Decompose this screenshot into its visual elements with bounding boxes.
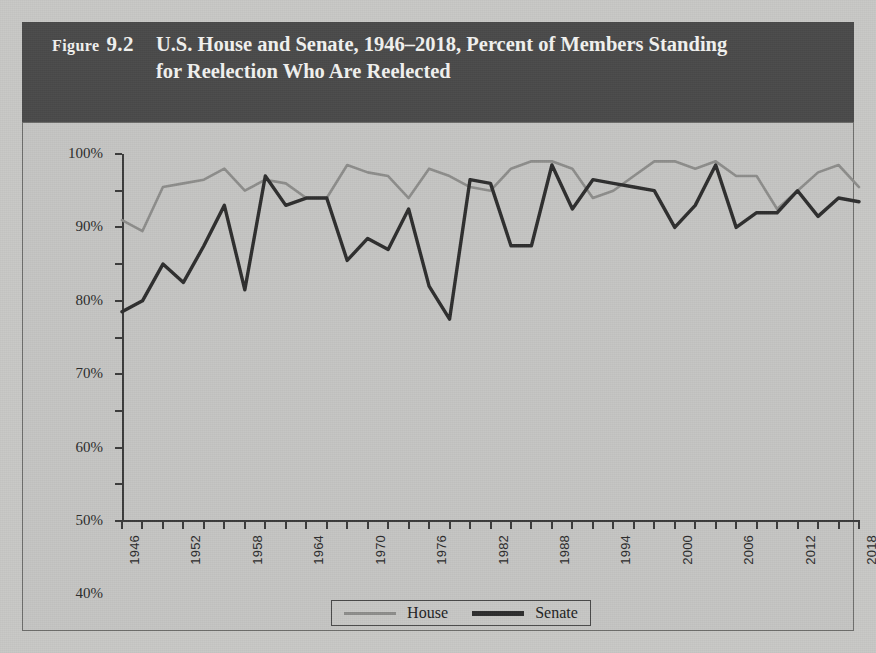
y-axis-tick: 20% bbox=[115, 447, 122, 449]
x-axis-tick bbox=[367, 521, 369, 529]
y-axis-tick-label: 40% bbox=[76, 585, 104, 602]
x-axis-tick-label: 1964 bbox=[311, 535, 326, 565]
x-axis-tick bbox=[490, 521, 492, 529]
x-axis-tick-label: 1988 bbox=[557, 535, 572, 565]
x-axis-tick bbox=[469, 521, 471, 529]
legend-label-senate: Senate bbox=[535, 604, 578, 622]
x-axis-tick-label: 1976 bbox=[434, 535, 449, 565]
x-axis-tick bbox=[182, 521, 184, 529]
figure-title-text: U.S. House and Senate, 1946–2018, Percen… bbox=[156, 31, 756, 85]
chart-legend: House Senate bbox=[331, 600, 591, 626]
x-axis-tick-label: 1952 bbox=[188, 535, 203, 565]
x-axis-tick bbox=[530, 521, 532, 529]
y-axis-tick: 70% bbox=[115, 263, 122, 265]
x-axis-tick bbox=[735, 521, 737, 529]
legend-swatch-house-icon bbox=[344, 612, 396, 615]
x-axis-tick-label: 1946 bbox=[127, 535, 142, 565]
x-axis-tick-label: 2018 bbox=[864, 535, 876, 565]
figure-title-band: Figure9.2 U.S. House and Senate, 1946–20… bbox=[22, 22, 854, 122]
figure-page: Figure9.2 U.S. House and Senate, 1946–20… bbox=[0, 0, 876, 653]
x-axis-tick bbox=[203, 521, 205, 529]
x-axis-tick-label: 2006 bbox=[741, 535, 756, 565]
y-axis-tick: 30% bbox=[115, 410, 122, 412]
x-axis-tick bbox=[428, 521, 430, 529]
x-axis-tick bbox=[408, 521, 410, 529]
x-axis-tick-label: 1982 bbox=[496, 535, 511, 565]
x-axis-tick-label: 2012 bbox=[803, 535, 818, 565]
x-axis-tick bbox=[387, 521, 389, 529]
series-line-senate bbox=[122, 165, 859, 319]
chart-frame: 100%90%80%70%60%50%40%30%20%10%0% 194619… bbox=[22, 122, 854, 631]
x-axis-tick bbox=[592, 521, 594, 529]
y-axis-tick: 50% bbox=[115, 337, 122, 339]
x-axis-tick bbox=[838, 521, 840, 529]
x-axis-tick-label: 2000 bbox=[680, 535, 695, 565]
legend-item-senate: Senate bbox=[472, 604, 578, 622]
x-axis-tick-label: 1958 bbox=[250, 535, 265, 565]
x-axis-tick bbox=[756, 521, 758, 529]
legend-swatch-senate-icon bbox=[472, 611, 524, 616]
y-axis-tick-label: 60% bbox=[76, 438, 104, 455]
y-axis-tick: 80% bbox=[115, 226, 122, 228]
x-axis-tick bbox=[244, 521, 246, 529]
plot-area: 100%90%80%70%60%50%40%30%20%10%0% 194619… bbox=[122, 154, 859, 521]
y-axis-tick: 40% bbox=[115, 373, 122, 375]
x-axis-tick bbox=[715, 521, 717, 529]
x-axis-tick bbox=[223, 521, 225, 529]
figure-label-word: Figure bbox=[52, 37, 99, 54]
x-axis-tick bbox=[449, 521, 451, 529]
y-axis-tick: 60% bbox=[115, 300, 122, 302]
x-axis-tick bbox=[571, 521, 573, 529]
x-axis-tick bbox=[162, 521, 164, 529]
x-axis-tick bbox=[121, 521, 123, 529]
x-axis-tick-label: 1994 bbox=[618, 535, 633, 565]
x-axis-tick bbox=[858, 521, 860, 529]
x-axis-tick bbox=[653, 521, 655, 529]
y-axis-tick: 10% bbox=[115, 483, 122, 485]
x-axis-tick bbox=[612, 521, 614, 529]
x-axis-tick bbox=[346, 521, 348, 529]
x-axis-tick bbox=[694, 521, 696, 529]
x-axis-tick bbox=[305, 521, 307, 529]
x-axis-tick bbox=[285, 521, 287, 529]
y-axis-tick: 100% bbox=[115, 153, 122, 155]
figure-label: Figure9.2 bbox=[52, 31, 134, 57]
y-axis-tick-label: 100% bbox=[68, 145, 103, 162]
y-axis-tick-label: 90% bbox=[76, 218, 104, 235]
x-axis-tick bbox=[141, 521, 143, 529]
legend-item-house: House bbox=[344, 604, 448, 622]
figure-number: 9.2 bbox=[106, 32, 133, 56]
y-axis-tick: 90% bbox=[115, 190, 122, 192]
x-axis-tick bbox=[264, 521, 266, 529]
y-axis-tick-label: 50% bbox=[76, 512, 104, 529]
legend-label-house: House bbox=[407, 604, 448, 622]
x-axis-tick bbox=[797, 521, 799, 529]
series-lines bbox=[122, 154, 859, 521]
x-axis-tick-label: 1970 bbox=[373, 535, 388, 565]
x-axis-tick bbox=[633, 521, 635, 529]
x-axis-tick bbox=[817, 521, 819, 529]
x-axis-tick bbox=[510, 521, 512, 529]
y-axis-tick-label: 80% bbox=[76, 291, 104, 308]
x-axis-tick bbox=[551, 521, 553, 529]
x-axis-tick bbox=[776, 521, 778, 529]
x-axis-tick bbox=[674, 521, 676, 529]
x-axis-tick bbox=[326, 521, 328, 529]
y-axis-tick-label: 70% bbox=[76, 365, 104, 382]
